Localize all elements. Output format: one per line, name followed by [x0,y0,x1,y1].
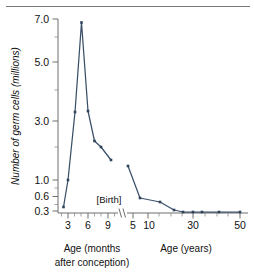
y-tick-label-2: 3.0 [34,115,49,127]
data-point-marker [62,206,65,209]
data-point-marker [87,110,90,113]
data-point-marker [93,140,96,143]
y-tick-label-5: 0.3 [34,205,49,217]
data-point-marker [110,159,113,162]
axis-break-marks [119,209,126,218]
data-point-marker [182,211,185,214]
data-point-marker [127,165,130,168]
x-axis-title-years: Age (years) [160,243,212,254]
data-point-marker [173,209,176,212]
data-point-marker [239,211,242,214]
data-series-germ-cells [62,21,241,213]
y-axis: 7.0 5.0 3.0 1.0 0.6 0.3 Number of germ c… [10,13,58,217]
y-tick-label-0: 7.0 [34,13,49,25]
data-line-months [64,23,112,208]
x-tick-label-months-2: 9 [105,219,111,231]
data-point-marker [218,211,221,214]
y-axis-title: Number of germ cells (millions) [10,47,21,185]
data-point-marker [201,211,204,214]
y-tick-label-3: 1.0 [34,174,49,186]
birth-annotation: [Birth] [97,194,122,205]
data-line-years [128,166,240,212]
y-tick-label-1: 5.0 [34,56,49,68]
data-point-marker [100,146,103,149]
figure-root: 7.0 5.0 3.0 1.0 0.6 0.3 Number of germ c… [0,0,254,278]
x-tick-label-months-1: 6 [85,219,91,231]
x-tick-label-years-0: 5 [130,219,136,231]
x-tick-label-months-0: 3 [65,219,71,231]
data-point-marker [67,179,70,182]
x-axis-title-months-line1: Age (months [64,243,121,254]
x-tick-label-years-1: 10 [143,219,155,231]
x-axis-title-months-line2: after conception) [55,257,130,268]
germ-cell-count-chart: 7.0 5.0 3.0 1.0 0.6 0.3 Number of germ c… [0,0,254,278]
data-point-marker [74,111,77,114]
data-point-marker [80,21,83,24]
x-tick-label-years-3: 50 [234,219,246,231]
data-point-marker [159,201,162,204]
data-point-marker [139,197,142,200]
x-tick-label-years-2: 30 [187,219,199,231]
data-point-marker [192,211,195,214]
y-tick-label-4: 0.6 [34,190,49,202]
